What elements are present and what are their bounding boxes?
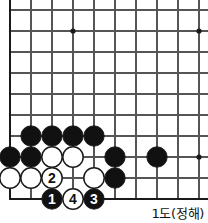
black-stone — [105, 168, 125, 188]
black-stone — [42, 126, 62, 146]
black-stone — [21, 147, 41, 167]
stone-white-2: 2 — [42, 168, 62, 188]
stone-white — [42, 147, 62, 167]
stone-black — [84, 126, 104, 146]
white-stone — [21, 168, 41, 188]
white-stone — [84, 168, 104, 188]
stone-white-4: 4 — [63, 189, 83, 209]
white-stone — [0, 168, 20, 188]
stone-black — [63, 126, 83, 146]
move-number-label: 3 — [90, 191, 98, 207]
go-board-canvas: 2143 — [0, 0, 208, 223]
stone-black — [105, 168, 125, 188]
black-stone — [63, 126, 83, 146]
go-diagram: 2143 1도(정해) — [0, 0, 208, 223]
move-number-label: 4 — [69, 191, 77, 207]
stone-black — [105, 147, 125, 167]
star-point — [196, 154, 201, 159]
black-stone — [84, 126, 104, 146]
white-stone — [42, 147, 62, 167]
board-grid-lines — [10, 0, 208, 199]
stone-black — [42, 126, 62, 146]
stone-black — [147, 147, 167, 167]
stone-white — [84, 168, 104, 188]
stone-black-3: 3 — [84, 189, 104, 209]
stone-black — [0, 147, 20, 167]
stone-white — [21, 168, 41, 188]
stone-black — [21, 126, 41, 146]
stones-layer: 2143 — [0, 126, 167, 209]
diagram-caption: 1도(정해) — [151, 203, 204, 222]
star-point — [70, 28, 75, 33]
black-stone — [105, 147, 125, 167]
stone-black-1: 1 — [42, 189, 62, 209]
black-stone — [0, 147, 20, 167]
stone-white — [63, 147, 83, 167]
black-stone — [21, 126, 41, 146]
move-number-label: 1 — [48, 191, 56, 207]
stone-white — [0, 168, 20, 188]
stone-black — [21, 147, 41, 167]
white-stone — [63, 147, 83, 167]
star-point — [196, 28, 201, 33]
move-number-label: 2 — [48, 170, 56, 186]
black-stone — [147, 147, 167, 167]
